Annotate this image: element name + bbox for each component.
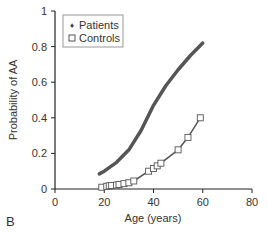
controls-marker (185, 134, 191, 140)
series (99, 43, 204, 190)
y-tick-label: 0 (41, 183, 47, 195)
x-tick-label: 40 (147, 196, 159, 208)
chart: 02040608000.20.40.60.81 ♦ Patients Contr… (0, 0, 268, 234)
square-icon (69, 35, 75, 41)
legend: ♦ Patients Controls (63, 15, 123, 47)
y-tick-label: 1 (41, 5, 47, 17)
x-tick-label: 60 (197, 196, 209, 208)
controls-marker (158, 160, 164, 166)
y-axis-label: Probability of AA (7, 59, 19, 140)
legend-controls-label: Controls (79, 32, 120, 44)
controls-marker (175, 147, 181, 153)
x-tick-label: 80 (246, 196, 258, 208)
diamond-icon: ♦ (70, 21, 74, 30)
x-tick-label: 0 (52, 196, 58, 208)
x-tick-label: 20 (98, 196, 110, 208)
panel-label: B (6, 214, 15, 229)
y-tick-label: 0.6 (32, 76, 47, 88)
patients-line (99, 43, 202, 174)
x-axis-label: Age (years) (125, 212, 182, 224)
y-tick-label: 0.8 (32, 41, 47, 53)
legend-patients-label: Patients (79, 19, 119, 31)
y-tick-label: 0.4 (32, 112, 47, 124)
controls-marker (131, 178, 137, 184)
controls-line (102, 118, 201, 187)
y-tick-label: 0.2 (32, 147, 47, 159)
controls-marker (197, 115, 203, 121)
